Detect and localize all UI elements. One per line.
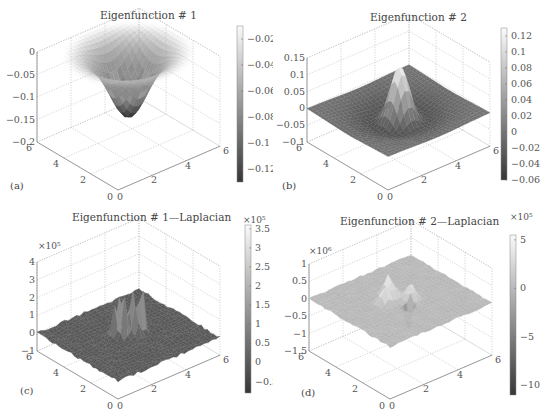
z-axis-ticks: 10.50−0.5−1−1.5 (284, 258, 307, 356)
colorbar-tick-label: −5 (520, 331, 534, 342)
y-tick-label: 2 (80, 383, 86, 394)
z-axis-ticks: 0.150.10.050−0.05−0.1 (276, 52, 305, 147)
surface-plot-a: 0−0.05−0.1−0.15−0.202460246−0.02−0.04−0.… (0, 0, 273, 206)
panel-b: 0.150.10.050−0.05−0.1024602460.120.10.08… (273, 0, 546, 206)
z-multiplier: ×10⁵ (38, 241, 61, 251)
colorbar: 0.120.10.080.060.040.020−0.02−0.04−0.06 (501, 28, 540, 185)
y-tick-label: 0 (377, 191, 383, 202)
panel-label: (d) (301, 387, 315, 398)
colorbar-tick-label: −0.02 (511, 142, 540, 153)
x-tick-label: 6 (495, 354, 501, 365)
z-tick-label: 1 (29, 309, 35, 320)
colorbar-tick-label: 0 (255, 356, 261, 367)
colorbar-tick-label: 3 (255, 242, 261, 253)
colorbar-tick-label: 0.12 (511, 30, 532, 41)
y-tick-label: 6 (26, 351, 32, 362)
z-tick-label: −0.5 (284, 310, 307, 321)
colorbar-tick-label: 0.06 (511, 78, 532, 89)
x-tick-label: 4 (457, 369, 463, 380)
panel-label: (c) (20, 385, 33, 396)
panel-label: (b) (282, 180, 296, 191)
x-tick-label: 2 (151, 174, 157, 185)
colorbar-tick-label: 0.02 (511, 110, 532, 121)
x-tick-label: 2 (151, 383, 157, 394)
colorbar-tick-label: 0.08 (511, 62, 532, 73)
plot-title: Eigenfunction # 1—Laplacian (72, 211, 231, 223)
z-tick-label: −0.05 (6, 69, 35, 80)
colorbar-multiplier: ×10⁵ (243, 215, 266, 225)
y-tick-label: 6 (296, 142, 302, 153)
colorbar-tick-label: 1 (255, 318, 261, 329)
y-tick-label: 0 (107, 191, 113, 202)
colorbar-tick-label: 2.5 (255, 261, 270, 272)
z-tick-label: 0.15 (284, 52, 305, 63)
x-axis-ticks: 0246 (117, 145, 229, 202)
x-axis-ticks: 0246 (387, 145, 499, 202)
z-axis-ticks: 0−0.05−0.1−0.15−0.2 (6, 46, 35, 147)
z-tick-label: −1 (293, 328, 307, 339)
surface-plot-c: 43210−102460246×10⁵3.532.521.510.50−0.5×… (0, 206, 273, 412)
surface-plot-d: 10.50−0.5−1−1.502460246×10⁶50−5−10×10⁵ (273, 206, 546, 412)
z-tick-label: 0.05 (284, 86, 305, 97)
z-tick-label: 4 (29, 256, 35, 267)
x-axis-ticks: 0246 (389, 354, 501, 411)
z-tick-label: 0 (29, 327, 35, 338)
z-tick-label: 0.1 (290, 69, 305, 80)
panel-d: 10.50−0.5−1−1.502460246×10⁶50−5−10×10⁵ E… (273, 206, 546, 412)
colorbar-multiplier: ×10⁵ (510, 212, 533, 222)
z-tick-label: 2 (29, 292, 35, 303)
colorbar-tick-label: −0.08 (247, 111, 273, 122)
x-tick-label: 2 (421, 174, 427, 185)
z-tick-label: 0 (301, 293, 307, 304)
x-tick-label: 6 (223, 145, 229, 156)
colorbar-tick-label: 0 (520, 282, 526, 293)
colorbar-tick-label: −0.06 (511, 174, 540, 185)
y-tick-label: 4 (53, 158, 59, 169)
x-tick-label: 0 (117, 400, 123, 411)
colorbar-tick-label: −0.04 (247, 59, 273, 70)
colorbar-tick-label: 0.5 (255, 337, 270, 348)
colorbar: 50−5−10×10⁵ (510, 212, 540, 395)
y-tick-label: 2 (350, 174, 356, 185)
colorbar-tick-label: 0.04 (511, 94, 532, 105)
colorbar-tick-label: 1.5 (255, 299, 270, 310)
z-multiplier: ×10⁶ (309, 246, 332, 256)
z-tick-label: 1 (301, 258, 307, 269)
colorbar-tick-label: 5 (520, 234, 526, 245)
z-tick-label: 0 (29, 46, 35, 57)
colorbar-tick-label: −0.02 (247, 33, 273, 44)
x-tick-label: 6 (223, 354, 229, 365)
colorbar-tick-label: −10 (520, 379, 540, 390)
z-tick-label: 0 (299, 102, 305, 113)
plot-title: Eigenfunction # 1 (100, 9, 197, 21)
x-tick-label: 0 (387, 191, 393, 202)
plot-title: Eigenfunction # 2—Laplacian (340, 215, 499, 227)
colorbar: −0.02−0.04−0.06−0.08−0.1−0.12 (237, 26, 273, 182)
y-axis-ticks: 0246 (298, 351, 385, 411)
y-tick-label: 2 (80, 174, 86, 185)
x-tick-label: 4 (185, 369, 191, 380)
y-tick-label: 0 (107, 400, 113, 411)
y-tick-label: 0 (379, 400, 385, 411)
colorbar-tick-label: −0.5 (255, 376, 273, 387)
y-tick-label: 4 (325, 367, 331, 378)
plot-title: Eigenfunction # 2 (370, 11, 467, 23)
z-axis-ticks: 43210−1 (21, 256, 35, 356)
surface (37, 289, 220, 382)
y-tick-label: 6 (298, 351, 304, 362)
y-tick-label: 6 (26, 142, 32, 153)
z-tick-label: 0.5 (292, 275, 307, 286)
z-tick-label: −0.1 (12, 91, 35, 102)
surface (307, 65, 490, 157)
z-tick-label: 3 (29, 274, 35, 285)
colorbar-tick-label: 2 (255, 280, 261, 291)
x-tick-label: 4 (455, 160, 461, 171)
y-tick-label: 4 (53, 367, 59, 378)
colorbar-tick-label: −0.12 (247, 163, 273, 174)
y-axis-ticks: 0246 (26, 142, 113, 202)
colorbar: 3.532.521.510.50−0.5×10⁵ (243, 215, 273, 393)
x-tick-label: 4 (185, 160, 191, 171)
panel-a: 0−0.05−0.1−0.15−0.202460246−0.02−0.04−0.… (0, 0, 273, 206)
surface (309, 256, 492, 348)
x-tick-label: 0 (117, 191, 123, 202)
